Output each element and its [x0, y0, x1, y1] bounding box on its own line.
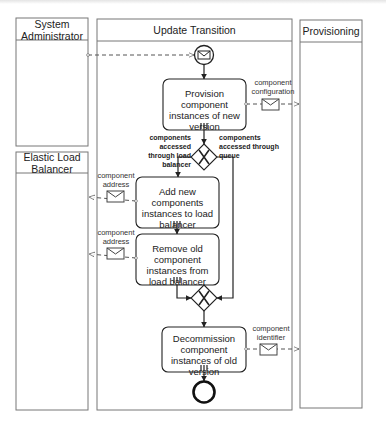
- task-label-remove: Remove old component instances from load…: [138, 243, 217, 287]
- message-envelope-address-remove: [107, 248, 124, 259]
- pool-title-system-administrator: System Administrator: [18, 18, 86, 42]
- message-label-identifier: component identifier: [249, 324, 293, 342]
- message-label-address-remove: component address: [94, 228, 138, 246]
- message-envelope-identifier: [260, 344, 277, 355]
- gateway-exclusive-merge: [191, 285, 217, 311]
- message-label-config: component configuration: [251, 78, 295, 96]
- gateway-label-queue: components accessed through queue: [219, 133, 279, 160]
- task-label-add: Add new components instances to load bal…: [138, 186, 217, 230]
- gateway-label-load-balancer: components accessed through load balance…: [136, 133, 191, 169]
- task-label-decommission: Decommission component instances of old …: [164, 333, 244, 377]
- pool-title-elastic-load-balancer: Elastic Load Balancer: [18, 151, 86, 175]
- gateway-exclusive-split: [191, 144, 217, 170]
- message-envelope-config: [262, 99, 279, 110]
- pool-provisioning: [300, 20, 362, 408]
- message-envelope-address-add: [107, 191, 124, 202]
- pool-title-update-transition: Update Transition: [97, 24, 292, 36]
- pool-title-provisioning: Provisioning: [300, 25, 362, 37]
- message-label-address-add: component address: [94, 171, 138, 189]
- pool-elastic-load-balancer: [16, 152, 88, 410]
- end-event: [194, 382, 215, 403]
- start-message-event: [195, 46, 214, 65]
- task-label-provision: Provision component instances of new ver…: [167, 88, 242, 132]
